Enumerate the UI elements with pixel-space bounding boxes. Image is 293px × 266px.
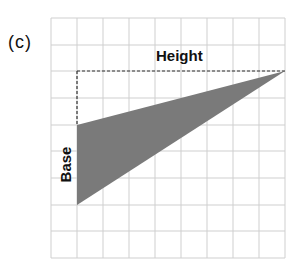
height-label: Height xyxy=(156,47,203,64)
panel-label: (c) xyxy=(8,32,32,53)
grid-diagram xyxy=(0,0,293,266)
base-label: Base xyxy=(57,145,74,185)
